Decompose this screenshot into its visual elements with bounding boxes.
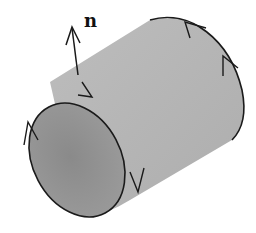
cylinder-diagram (0, 0, 256, 233)
normal-vector-label: n (84, 12, 97, 30)
